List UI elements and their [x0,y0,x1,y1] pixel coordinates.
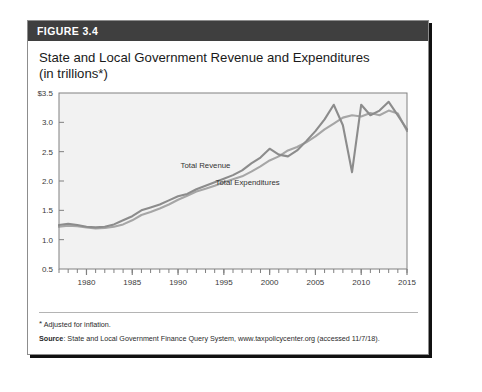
svg-text:2000: 2000 [261,278,279,287]
svg-text:2.0: 2.0 [42,177,54,186]
line-chart: 0.51.01.52.02.53.0$3.5 19801985199019952… [28,85,428,297]
figure-card: FIGURE 3.4 State and Local Government Re… [27,20,429,355]
svg-text:1.5: 1.5 [42,206,54,215]
svg-text:1995: 1995 [215,278,233,287]
svg-text:1980: 1980 [78,278,96,287]
svg-text:Total Expenditures: Total Expenditures [216,178,280,187]
footnote-text: Adjusted for inflation. [44,320,111,329]
footnote-marker: * [39,319,42,328]
figure-title: State and Local Government Revenue and E… [28,41,428,83]
figure-title-line-2: (in trillions*) [39,66,416,82]
svg-text:Total Revenue: Total Revenue [181,161,231,170]
figure-header-bar: FIGURE 3.4 [28,21,428,41]
figure-title-line-1: State and Local Government Revenue and E… [39,50,416,66]
y-tick-labels: 0.51.01.52.02.53.0$3.5 [37,89,53,274]
svg-text:2.5: 2.5 [42,148,54,157]
source-text: : State and Local Government Finance Que… [63,334,379,343]
svg-text:2005: 2005 [307,278,325,287]
figure-notes: * Adjusted for inflation. Source: State … [28,312,428,354]
notes-divider [39,312,418,313]
x-minor-tick-marks [59,269,407,273]
chart-area: 0.51.01.52.02.53.0$3.5 19801985199019952… [28,85,428,297]
svg-text:1990: 1990 [169,278,187,287]
svg-text:3.0: 3.0 [42,118,54,127]
svg-text:1.0: 1.0 [42,236,54,245]
svg-text:0.5: 0.5 [42,265,54,274]
svg-text:1985: 1985 [123,278,141,287]
source-label: Source [39,334,63,343]
footnote: * Adjusted for inflation. [39,318,418,330]
x-tick-labels: 19801985199019952000200520102015 [78,278,417,287]
figure-number-label: FIGURE 3.4 [37,25,98,37]
svg-text:2015: 2015 [398,278,416,287]
svg-text:2010: 2010 [352,278,370,287]
x-major-tick-marks [86,269,407,275]
svg-text:$3.5: $3.5 [37,89,53,98]
source-line: Source: State and Local Government Finan… [39,333,418,344]
